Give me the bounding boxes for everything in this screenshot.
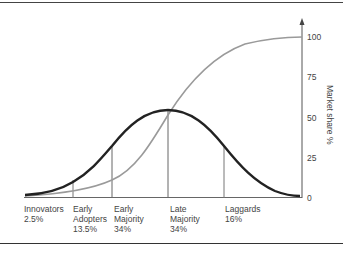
axis-arrow-icon	[300, 18, 305, 25]
label-laggards: Laggards 16%	[225, 204, 260, 224]
label-late-majority: Late Majority 34%	[170, 204, 200, 234]
label-early-adopters: Early Adopters 13.5%	[73, 204, 107, 234]
label-innovators: Innovators 2.5%	[24, 204, 64, 224]
y-tick-0: 0	[307, 193, 312, 203]
y-axis-title: Market share %	[325, 85, 335, 145]
market-share-curve	[25, 37, 302, 196]
y-tick-25: 25	[307, 153, 316, 163]
label-early-majority: Early Majority 34%	[114, 204, 144, 234]
y-tick-100: 100	[307, 32, 321, 42]
y-tick-75: 75	[307, 72, 316, 82]
y-tick-50: 50	[307, 113, 316, 123]
